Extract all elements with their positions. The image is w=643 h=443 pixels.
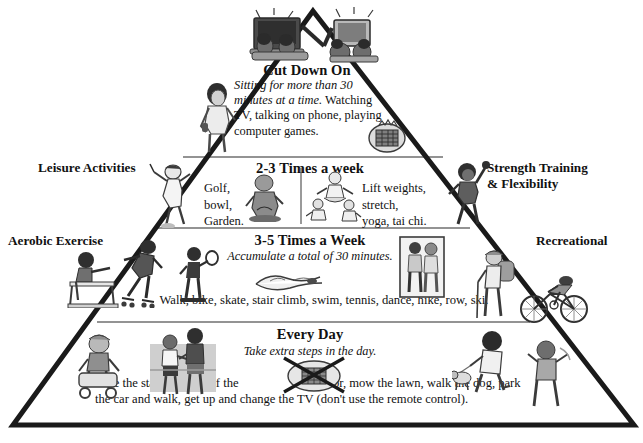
no-remote-crossed-out-icon: [278, 352, 350, 396]
tier-title-three-five-times: 3-5 Times a Week: [215, 232, 405, 249]
tier2-right-item-0: Lift weights,: [362, 180, 427, 197]
walking-couple-icon: [399, 236, 445, 298]
board-game-icon: [366, 118, 408, 154]
skater-icon: [118, 238, 166, 308]
dog-walker-icon: [452, 330, 514, 398]
tier2-right-item-1: stretch,: [362, 197, 427, 214]
tier2-left-item-1: bowl,: [204, 197, 244, 214]
tier-subtitle-three-five-times: Accumulate a total of 30 minutes.: [195, 249, 425, 264]
person-with-stroller-icon: [73, 333, 127, 399]
tier2-left-item-2: Garden.: [204, 213, 244, 230]
person-walking-icon: [524, 338, 576, 410]
strength-line-2: & Flexibility: [487, 176, 558, 191]
yoga-group-icon: [306, 170, 362, 224]
tier-title-every-day: Every Day: [245, 326, 375, 343]
side-label-leisure-activities: Leisure Activities: [38, 160, 136, 176]
strength-line-1: Strength Training: [487, 160, 588, 175]
tv-and-computer-kids-icon: [236, 6, 386, 64]
couple-walking-stairs-icon: [150, 326, 216, 396]
tier2-right-list: Lift weights, stretch, yoga, tai chi.: [362, 180, 427, 230]
swimmer-icon: [250, 268, 328, 294]
tier-title-cut-down-on: Cut Down On: [232, 62, 382, 79]
weightlifter-icon: [445, 158, 493, 226]
tennis-player-icon: [178, 244, 222, 306]
physical-activity-pyramid: Cut Down On Sitting for more than 30 min…: [0, 0, 643, 443]
side-label-aerobic-exercise: Aerobic Exercise: [8, 233, 103, 249]
cyclist-icon: [520, 272, 590, 324]
side-label-recreational: Recreational: [536, 233, 608, 249]
hiker-icon: [474, 248, 518, 322]
person-on-phone-icon: [195, 82, 239, 154]
rower-icon: [66, 248, 122, 308]
side-label-strength-training: Strength Training & Flexibility: [487, 160, 588, 192]
tier2-right-item-2: yoga, tai chi.: [362, 213, 427, 230]
gardener-icon: [244, 174, 286, 222]
tier2-left-item-0: Golf,: [204, 180, 244, 197]
tier2-left-list: Golf, bowl, Garden.: [204, 180, 244, 230]
golfer-icon: [148, 162, 196, 228]
